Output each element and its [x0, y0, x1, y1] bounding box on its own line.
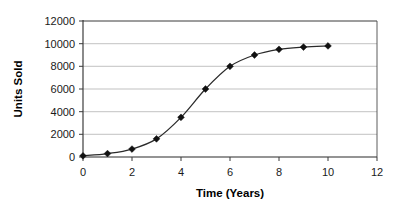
- x-tick-label-2: 2: [129, 166, 135, 178]
- x-tick-label-10: 10: [322, 166, 334, 178]
- chart-figure: 12000 10000 8000 6000 4000 2000 0 0 2 4 …: [0, 0, 396, 209]
- y-axis-title: Units Sold: [12, 61, 24, 118]
- x-tick-label-12: 12: [371, 166, 383, 178]
- x-tick-label-6: 6: [227, 166, 233, 178]
- x-axis-title: Time (Years): [196, 187, 264, 199]
- y-tick-label-8000: 8000: [51, 60, 75, 72]
- y-tick-label-0: 0: [69, 151, 75, 163]
- y-tick-label-10000: 10000: [44, 38, 75, 50]
- y-tick-label-4000: 4000: [51, 106, 75, 118]
- x-tick-label-4: 4: [178, 166, 184, 178]
- y-tick-label-2000: 2000: [51, 128, 75, 140]
- line-chart-svg: 12000 10000 8000 6000 4000 2000 0 0 2 4 …: [0, 0, 396, 209]
- y-tick-label-12000: 12000: [44, 15, 75, 27]
- y-tick-label-6000: 6000: [51, 83, 75, 95]
- x-tick-label-8: 8: [276, 166, 282, 178]
- x-tick-label-0: 0: [80, 166, 86, 178]
